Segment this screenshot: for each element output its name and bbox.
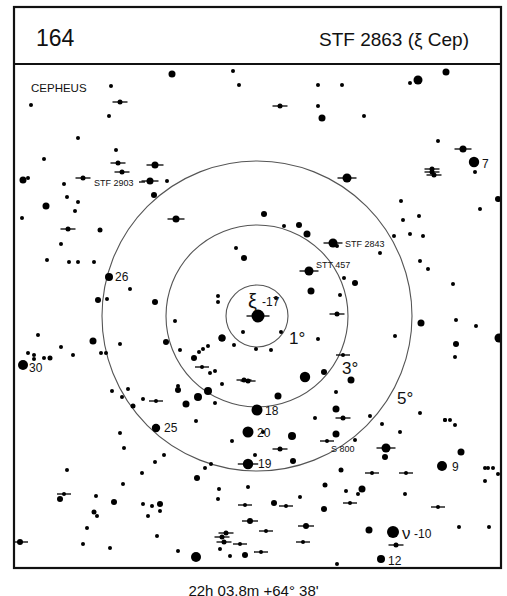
star — [42, 157, 46, 161]
star — [269, 348, 273, 352]
star-label: 7 — [482, 157, 489, 171]
star — [213, 401, 217, 405]
star — [443, 69, 450, 76]
star — [118, 431, 122, 435]
star — [418, 411, 422, 415]
star — [401, 218, 405, 222]
star — [65, 468, 69, 472]
star — [382, 454, 388, 460]
star — [209, 462, 213, 466]
star — [437, 461, 447, 471]
star — [163, 339, 169, 345]
star — [378, 251, 382, 255]
star — [204, 387, 212, 395]
star — [81, 542, 85, 546]
star — [104, 351, 108, 355]
star — [282, 224, 286, 228]
star — [155, 534, 159, 538]
star — [194, 475, 200, 481]
star — [220, 382, 224, 386]
star — [242, 552, 248, 558]
star — [232, 343, 236, 347]
star — [201, 347, 205, 351]
star — [271, 500, 277, 506]
star — [486, 466, 490, 470]
star — [213, 369, 217, 373]
star — [67, 260, 71, 264]
star — [173, 319, 177, 323]
star — [73, 209, 77, 213]
star — [216, 294, 220, 298]
star — [356, 492, 360, 496]
star — [216, 300, 220, 304]
star — [393, 334, 397, 338]
star — [335, 244, 339, 248]
star — [141, 502, 145, 506]
star — [110, 389, 114, 393]
star — [392, 234, 396, 238]
star — [114, 148, 118, 152]
star-label: ξ — [248, 290, 257, 312]
star — [457, 525, 461, 529]
star — [95, 514, 99, 518]
star-label: S 800 — [331, 444, 355, 454]
star — [352, 280, 358, 286]
star — [165, 179, 169, 183]
star — [162, 453, 166, 457]
star — [387, 526, 399, 538]
star — [418, 320, 425, 327]
star — [495, 334, 504, 343]
star — [153, 460, 157, 464]
star — [296, 222, 302, 228]
star — [253, 453, 257, 457]
star-label: 12 — [388, 554, 402, 568]
star — [399, 199, 403, 203]
star — [109, 84, 113, 88]
star — [304, 231, 311, 238]
star — [443, 418, 447, 422]
star — [76, 260, 80, 264]
star — [191, 552, 201, 562]
ring-label: 3° — [342, 359, 358, 378]
star — [451, 282, 455, 286]
star — [95, 297, 101, 303]
star — [321, 506, 327, 512]
star — [458, 449, 465, 456]
star — [333, 406, 340, 413]
star — [366, 527, 373, 534]
star — [279, 330, 283, 334]
star — [453, 341, 459, 347]
star — [178, 348, 182, 352]
star — [20, 177, 27, 184]
star — [398, 430, 402, 434]
star-label-flamsteed: -10 — [414, 527, 432, 541]
star — [473, 170, 477, 174]
star — [57, 496, 63, 502]
star — [246, 485, 250, 489]
star — [335, 562, 339, 566]
star-chart: 164 STF 2863 (ξ Cep) CEPHEUS 1°3°5° ξ-17… — [0, 0, 507, 596]
star — [362, 114, 366, 118]
star — [141, 397, 145, 401]
star — [36, 333, 40, 337]
star — [157, 501, 163, 507]
star — [92, 260, 96, 264]
star — [453, 355, 457, 359]
star — [300, 372, 310, 382]
star — [321, 369, 327, 375]
star — [216, 497, 220, 501]
star — [197, 350, 201, 354]
object-title: STF 2863 (ξ Cep) — [319, 29, 469, 50]
star — [59, 242, 63, 246]
star — [338, 293, 342, 297]
star — [218, 547, 222, 551]
star — [421, 234, 425, 238]
star — [342, 276, 346, 280]
star — [231, 69, 235, 73]
star — [316, 337, 320, 341]
star — [152, 299, 158, 305]
star — [230, 439, 234, 443]
star — [111, 499, 117, 505]
star-label: ν — [402, 524, 411, 543]
star — [359, 486, 366, 493]
